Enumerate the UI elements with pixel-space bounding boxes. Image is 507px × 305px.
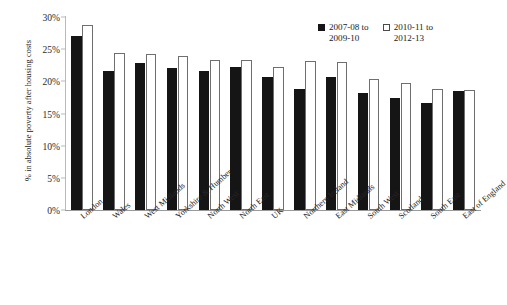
plot-area [66,17,480,210]
y-axis-tick-label: 25% [42,44,60,55]
legend-label-line2: 2012-13 [394,33,433,44]
bar-series-2 [241,60,252,210]
bar-group [66,17,98,210]
bar-series-1 [230,67,241,210]
y-axis-tick-label: 15% [42,108,60,119]
y-axis-tick-label: 20% [42,76,60,87]
bar-group [416,17,448,210]
legend-item: 2010-11 to2012-13 [383,22,433,44]
legend-label-line2: 2009-10 [329,33,369,44]
bar-series-2 [401,83,412,210]
bar-group [289,17,321,210]
bar-series-2 [273,67,284,210]
filled-square-icon [318,24,325,31]
bar-series-2 [114,53,125,210]
bar-series-2 [432,89,443,210]
bar-series-1 [103,71,114,210]
y-axis-tick-label: 10% [42,140,60,151]
bar-series-1 [71,36,82,210]
bar-series-1 [421,103,432,210]
bar-series-2 [305,61,316,210]
bar-series-2 [146,54,157,210]
bar-group [162,17,194,210]
chart-legend: 2007-08 to2009-102010-11 to2012-13 [318,22,433,44]
y-axis-tick-label: 0% [47,205,60,216]
legend-item: 2007-08 to2009-10 [318,22,369,44]
bar-group [384,17,416,210]
bar-group [257,17,289,210]
bar-group [225,17,257,210]
bar-series-2 [464,90,475,210]
bar-series-2 [82,25,93,210]
bar-series-1 [294,89,305,210]
empty-square-icon [383,24,390,31]
legend-label: 2010-11 to2012-13 [394,22,433,44]
bar-series-1 [135,63,146,210]
bar-group [448,17,480,210]
legend-label: 2007-08 to2009-10 [329,22,369,44]
y-axis-tick-label: 5% [47,172,60,183]
bar-group [98,17,130,210]
y-axis-tick-label: 30% [42,12,60,23]
y-axis-ticks: 30%25%20%15%10%5%0% [0,0,66,305]
bar-group [353,17,385,210]
bar-group [130,17,162,210]
